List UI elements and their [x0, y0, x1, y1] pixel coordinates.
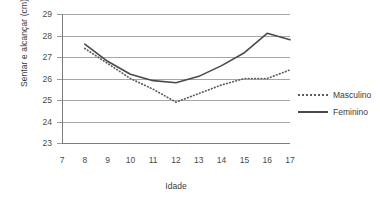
legend-item-feminino: Feminino — [298, 103, 371, 120]
legend-label-feminino: Feminino — [333, 107, 368, 117]
chart-legend: Masculino Feminino — [298, 86, 371, 120]
legend-label-masculino: Masculino — [333, 90, 371, 100]
legend-swatch-solid-icon — [298, 111, 328, 113]
series-line-feminino — [85, 33, 290, 82]
legend-swatch-dotted-icon — [298, 94, 328, 96]
x-axis-title: Idade — [62, 181, 290, 191]
line-chart: Sentar e alcançar (cm) 23242526272829 78… — [0, 0, 380, 204]
legend-item-masculino: Masculino — [298, 86, 371, 103]
series-line-masculino — [85, 48, 290, 102]
